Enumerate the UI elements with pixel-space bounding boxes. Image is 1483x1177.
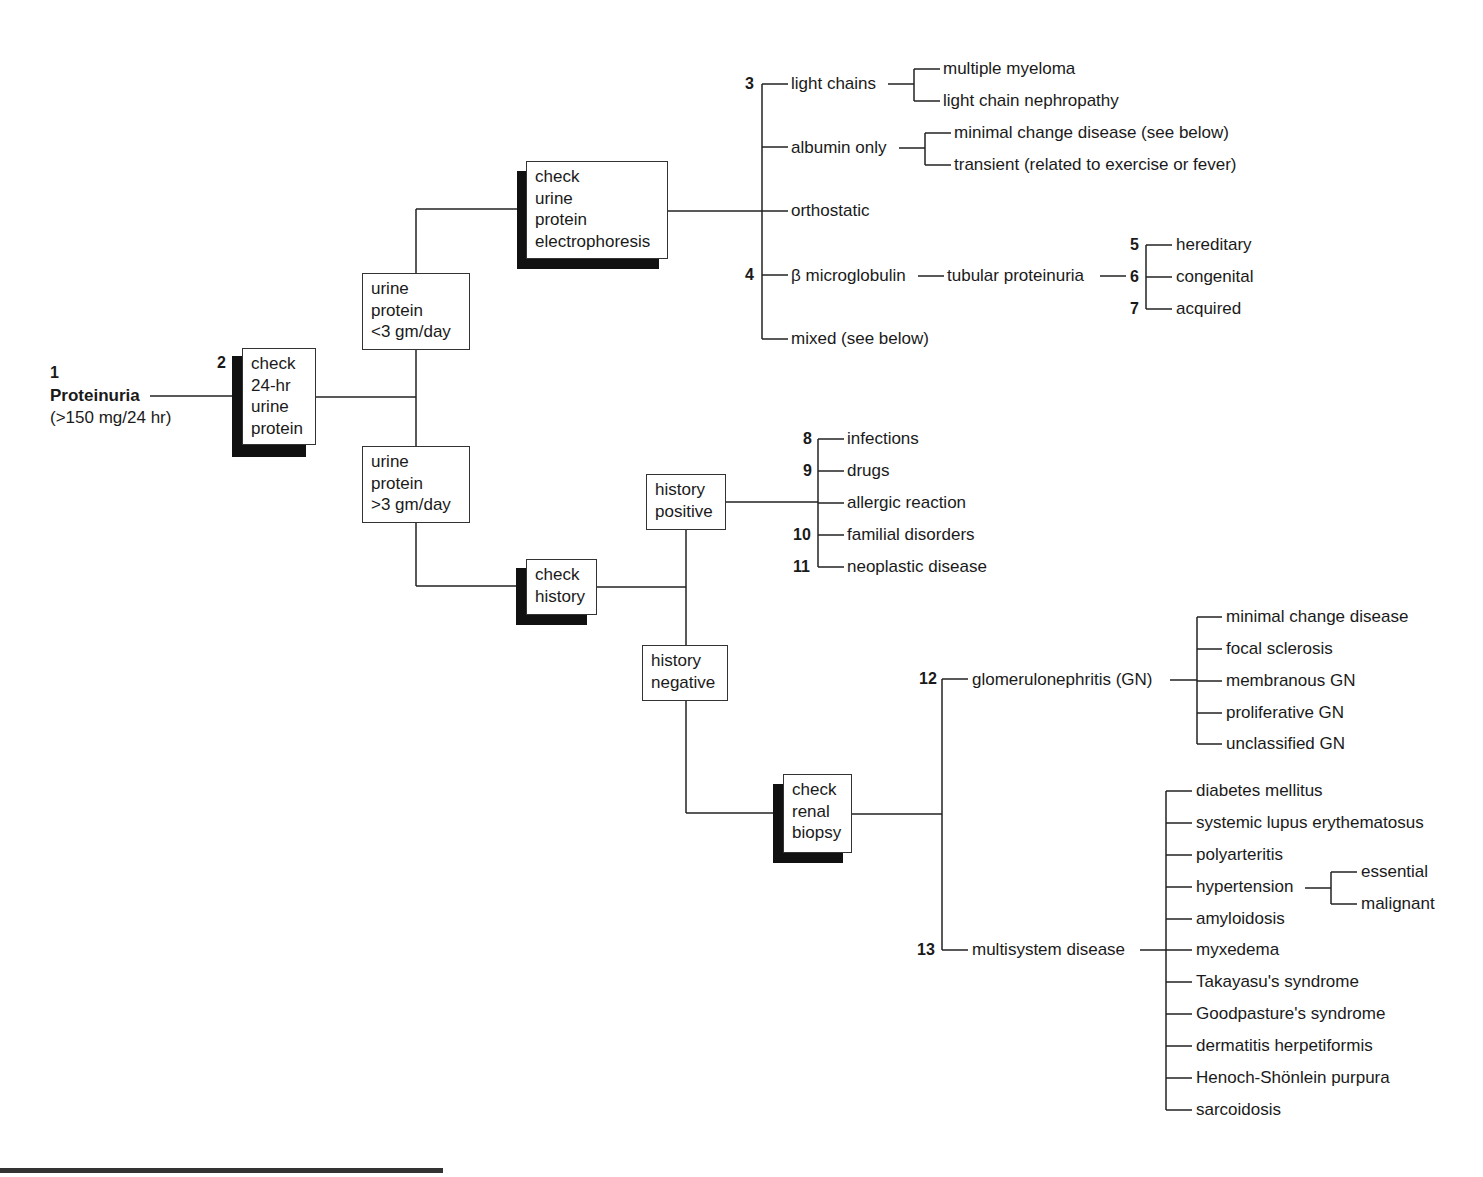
history-positive-box[interactable]: history positive [646,474,726,530]
result-minimal-change: minimal change disease (see below) [952,123,1231,143]
ms-dermatitis: dermatitis herpetiformis [1194,1036,1375,1056]
result-hereditary: hereditary [1174,235,1254,255]
gn-focal-sclerosis: focal sclerosis [1224,639,1335,659]
ms-goodpasture: Goodpasture's syndrome [1194,1004,1387,1024]
ht-essential: essential [1359,862,1430,882]
ms-sarcoidosis: sarcoidosis [1194,1100,1283,1120]
history-neoplastic-disease: neoplastic disease [845,557,989,577]
result-orthostatic: orthostatic [789,201,871,221]
step-number-5: 5 [1130,235,1139,255]
protein-gt3-box[interactable]: urine protein >3 gm/day [362,446,470,523]
gn-unclassified: unclassified GN [1224,734,1347,754]
ms-lupus: systemic lupus erythematosus [1194,813,1426,833]
history-negative-box[interactable]: history negative [642,645,728,701]
step-number-13: 13 [917,940,935,960]
ht-malignant: malignant [1359,894,1437,914]
gn-membranous: membranous GN [1224,671,1357,691]
gn-proliferative: proliferative GN [1224,703,1346,723]
result-beta-microglobulin: β microglobulin [789,266,908,286]
ms-hypertension: hypertension [1194,877,1295,897]
ms-diabetes: diabetes mellitus [1194,781,1325,801]
step-number-10: 10 [793,525,811,545]
result-multisystem: multisystem disease [970,940,1127,960]
ms-myxedema: myxedema [1194,940,1281,960]
result-mixed: mixed (see below) [789,329,931,349]
result-acquired: acquired [1174,299,1243,319]
step-number-2: 2 [217,353,226,373]
gn-minimal-change: minimal change disease [1224,607,1410,627]
step-number-11: 11 [793,557,810,577]
result-transient: transient (related to exercise or fever) [952,155,1239,175]
protein-lt3-box[interactable]: urine protein <3 gm/day [362,273,470,350]
ms-henoch: Henoch-Shönlein purpura [1194,1068,1392,1088]
root-sublabel: (>150 mg/24 hr) [50,408,171,428]
electrophoresis-box[interactable]: check urine protein electrophoresis [526,161,668,259]
step-number-8: 8 [803,429,812,449]
step-number-4: 4 [745,265,754,285]
ms-polyarteritis: polyarteritis [1194,845,1285,865]
ms-takayasu: Takayasu's syndrome [1194,972,1361,992]
ms-amyloidosis: amyloidosis [1194,909,1287,929]
history-familial-disorders: familial disorders [845,525,977,545]
result-multiple-myeloma: multiple myeloma [941,59,1077,79]
history-infections: infections [845,429,921,449]
root-label: Proteinuria [50,386,140,406]
step-number-7: 7 [1130,299,1139,319]
result-tubular-proteinuria: tubular proteinuria [945,266,1086,286]
result-congenital: congenital [1174,267,1256,287]
check-history-box[interactable]: check history [526,559,597,615]
step-number-1: 1 [50,364,59,382]
result-glomerulonephritis: glomerulonephritis (GN) [970,670,1154,690]
check-24hr-box[interactable]: check 24-hr urine protein [242,348,316,445]
step-number-3: 3 [745,74,754,94]
step-number-12: 12 [919,669,937,689]
step-number-9: 9 [803,461,812,481]
result-light-chains: light chains [789,74,878,94]
result-albumin-only: albumin only [789,138,888,158]
history-allergic-reaction: allergic reaction [845,493,968,513]
result-light-chain-nephropathy: light chain nephropathy [941,91,1121,111]
step-number-6: 6 [1130,267,1139,287]
history-drugs: drugs [845,461,892,481]
connector-lines [0,0,1483,1177]
renal-biopsy-box[interactable]: check renal biopsy [783,774,852,853]
footer-rule [0,1168,443,1173]
